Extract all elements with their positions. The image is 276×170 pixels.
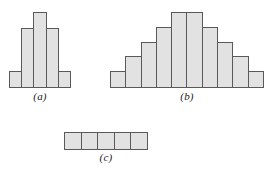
bar <box>141 42 157 88</box>
bar <box>64 132 82 150</box>
bar <box>58 71 71 88</box>
panel-caption-c: (c) <box>64 151 148 164</box>
bar <box>186 12 202 88</box>
bar <box>81 132 99 150</box>
bar <box>125 56 141 88</box>
panel-caption-a: (a) <box>9 90 71 103</box>
bar <box>130 132 148 150</box>
panel-caption-b: (b) <box>110 90 264 103</box>
bar-group-b <box>110 12 264 88</box>
bar <box>97 132 115 150</box>
bar <box>232 56 248 88</box>
bar-group-a <box>9 12 71 88</box>
histogram-panel-c: (c) <box>64 132 148 150</box>
bar <box>156 27 172 88</box>
bar <box>114 132 132 150</box>
histogram-shapes-figure: (a) (b) (c) <box>0 0 276 170</box>
bar <box>202 27 218 88</box>
bar <box>110 71 126 88</box>
bar <box>248 71 264 88</box>
bar <box>171 12 187 88</box>
bar-group-c <box>64 132 148 150</box>
bar <box>217 42 233 88</box>
histogram-panel-b: (b) <box>110 12 264 88</box>
histogram-panel-a: (a) <box>9 12 71 88</box>
